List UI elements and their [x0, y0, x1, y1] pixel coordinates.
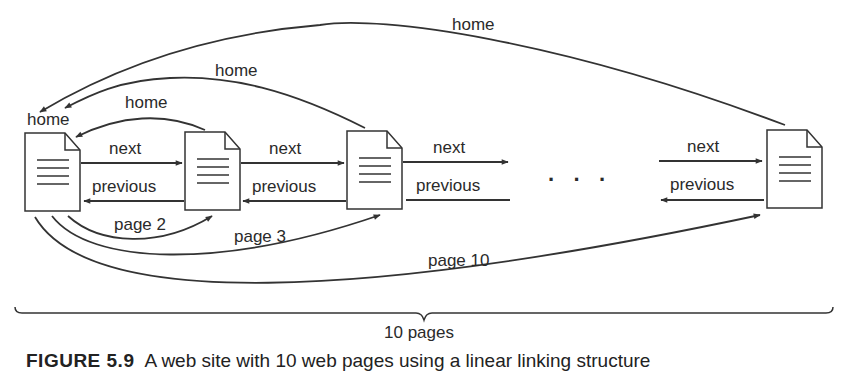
brace-label: 10 pages	[384, 323, 454, 342]
home-label-inner: home	[125, 93, 168, 112]
next-label-4: next	[687, 137, 719, 156]
next-label-3: next	[433, 138, 465, 157]
page-icon-3	[347, 131, 402, 209]
figure-caption: FIGURE 5.9A web site with 10 web pages u…	[26, 350, 650, 372]
page-icon-2	[185, 132, 240, 210]
home-label-top: home	[452, 15, 495, 34]
page3-label: page 3	[234, 227, 286, 246]
previous-label-2: previous	[252, 177, 316, 196]
home-label-middle: home	[215, 61, 258, 80]
page-icon-10	[767, 130, 822, 208]
previous-label-1: previous	[92, 177, 156, 196]
next-label-2: next	[269, 139, 301, 158]
caption-text: A web site with 10 web pages using a lin…	[144, 350, 650, 371]
page10-label: page 10	[428, 251, 489, 270]
ten-pages-brace	[15, 307, 833, 320]
previous-label-3: previous	[416, 176, 480, 195]
ellipsis: · · ·	[548, 167, 612, 192]
page-icon-1	[25, 133, 80, 211]
home-arrow-page3	[65, 78, 365, 128]
home-page-label: home	[27, 110, 70, 129]
page2-label: page 2	[114, 215, 166, 234]
previous-label-4: previous	[670, 175, 734, 194]
figure-number: FIGURE 5.9	[26, 350, 134, 371]
next-label-1: next	[109, 139, 141, 158]
